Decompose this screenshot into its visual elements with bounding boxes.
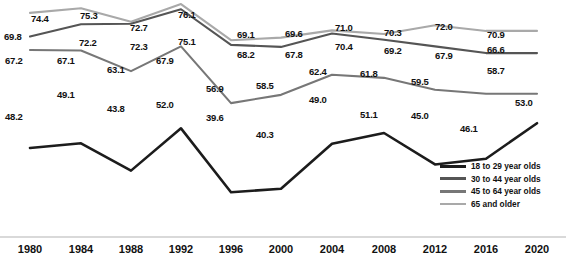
data-point-label: 71.0	[335, 22, 353, 33]
data-point-label: 76.1	[178, 9, 196, 20]
data-point-label: 75.3	[80, 10, 98, 21]
data-point-label: 67.2	[5, 55, 23, 66]
data-point-label: 63.1	[107, 64, 125, 75]
legend-item-3[interactable]: 65 and older	[440, 198, 566, 211]
data-point-label: 46.1	[460, 123, 478, 134]
legend-label: 18 to 29 year olds	[471, 161, 541, 171]
x-axis-line	[0, 236, 566, 238]
chart-legend: 18 to 29 year olds30 to 44 year olds45 t…	[440, 160, 566, 210]
data-point-label: 43.8	[107, 103, 125, 114]
data-point-label: 69.2	[384, 45, 402, 56]
legend-swatch-icon	[440, 203, 466, 205]
data-point-label: 58.5	[256, 80, 274, 91]
chart-container: 74.475.372.776.169.169.671.070.372.070.9…	[0, 0, 566, 276]
data-point-label: 48.2	[5, 111, 23, 122]
x-tick-2016: 2016	[474, 243, 498, 255]
data-point-label: 67.9	[435, 50, 453, 61]
data-point-label: 67.1	[57, 55, 75, 66]
data-point-label: 45.0	[411, 110, 429, 121]
data-point-label: 69.6	[285, 28, 303, 39]
data-point-label: 68.2	[237, 49, 255, 60]
data-point-label: 67.8	[285, 49, 303, 60]
data-point-label: 51.1	[360, 109, 378, 120]
legend-swatch-icon	[440, 177, 466, 180]
data-point-label: 69.1	[237, 29, 255, 40]
data-point-label: 56.9	[206, 83, 224, 94]
data-point-label: 59.5	[411, 76, 429, 87]
data-point-label: 53.0	[515, 97, 533, 108]
x-tick-1984: 1984	[69, 243, 93, 255]
legend-label: 45 to 64 year olds	[471, 186, 541, 196]
legend-item-2[interactable]: 45 to 64 year olds	[440, 185, 566, 198]
legend-label: 30 to 44 year olds	[471, 174, 541, 184]
data-point-label: 75.1	[178, 36, 196, 47]
data-point-label: 72.7	[130, 22, 148, 33]
legend-item-1[interactable]: 30 to 44 year olds	[440, 173, 566, 186]
x-tick-2000: 2000	[269, 243, 293, 255]
data-point-label: 49.1	[57, 89, 75, 100]
data-point-label: 69.8	[4, 31, 22, 42]
data-point-label: 40.3	[256, 129, 274, 140]
data-point-label: 70.9	[487, 29, 505, 40]
x-tick-2008: 2008	[372, 243, 396, 255]
data-point-label: 39.6	[206, 112, 224, 123]
data-point-label: 49.0	[309, 94, 327, 105]
data-point-label: 72.0	[435, 21, 453, 32]
x-tick-2004: 2004	[320, 243, 344, 255]
x-tick-1992: 1992	[169, 243, 193, 255]
legend-label: 65 and older	[471, 199, 520, 209]
data-point-label: 62.4	[309, 66, 327, 77]
x-axis-tick-labels: 1980198419881992199620002004200820122016…	[0, 243, 566, 265]
x-tick-1980: 1980	[18, 243, 42, 255]
x-tick-2012: 2012	[423, 243, 447, 255]
legend-item-0[interactable]: 18 to 29 year olds	[440, 160, 566, 173]
x-tick-1988: 1988	[119, 243, 143, 255]
data-point-label: 67.9	[156, 55, 174, 66]
data-point-label: 72.3	[130, 41, 148, 52]
data-point-label: 72.2	[79, 37, 97, 48]
data-point-label: 74.4	[31, 13, 49, 24]
data-point-label: 70.4	[335, 41, 353, 52]
legend-swatch-icon	[440, 190, 466, 193]
data-point-label: 70.3	[384, 27, 402, 38]
x-tick-1996: 1996	[219, 243, 243, 255]
data-point-label: 58.7	[487, 65, 505, 76]
series-line-3	[30, 4, 537, 40]
data-point-label: 66.6	[487, 44, 505, 55]
data-point-label: 61.8	[360, 68, 378, 79]
legend-swatch-icon	[440, 165, 466, 168]
x-tick-2020: 2020	[525, 243, 549, 255]
data-point-label: 52.0	[156, 99, 174, 110]
